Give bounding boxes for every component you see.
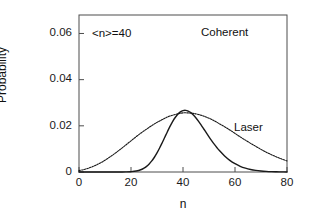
annotation-mean-photon-number: <n>=40 bbox=[92, 28, 131, 40]
y-axis-title: Probability bbox=[0, 47, 8, 103]
ytick-label-3: 0 bbox=[18, 166, 72, 178]
ytick-label-0: 0.06 bbox=[18, 27, 72, 39]
series-label-laser: Laser bbox=[234, 122, 263, 134]
xtick-label-3: 60 bbox=[229, 177, 242, 189]
x-axis-title: n bbox=[180, 198, 187, 210]
xtick-label-2: 40 bbox=[177, 177, 190, 189]
figure-container: 0.06 0.04 0.02 0 0 20 40 60 80 Probabili… bbox=[0, 0, 309, 217]
ytick-label-1: 0.04 bbox=[18, 73, 72, 85]
series-label-coherent: Coherent bbox=[201, 27, 248, 39]
xtick-label-4: 80 bbox=[281, 177, 294, 189]
xtick-label-1: 20 bbox=[125, 177, 138, 189]
ytick-label-2: 0.02 bbox=[18, 120, 72, 132]
xtick-label-0: 0 bbox=[76, 177, 82, 189]
